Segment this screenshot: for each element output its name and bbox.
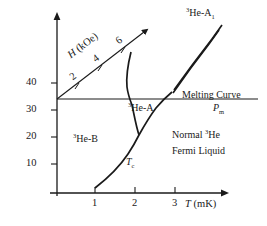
y-axis [51, 12, 60, 196]
he3-phase-diagram-figure: 40 30 20 10 P (Atm.) 1 2 3 T (mK) H (kOe… [0, 0, 267, 226]
x-tick-label-2: 2 [132, 198, 137, 209]
y-tick-label-30: 30 [26, 104, 37, 115]
he3-b-main: He-B [76, 133, 98, 144]
tc-subscript: c [132, 162, 135, 169]
x-axis-title-unit: (mK) [193, 198, 216, 209]
label-normal-he3: Normal 3He [172, 130, 220, 140]
a1-lower-boundary [173, 30, 219, 93]
x-axis-title: T (mK) [185, 199, 216, 210]
y-tick-label-20: 20 [26, 131, 37, 142]
normal-he3-main: He [208, 129, 220, 140]
label-pm: Pm [213, 103, 224, 113]
x-axis [50, 187, 229, 196]
ab-boundary-curve [127, 52, 139, 135]
y-axis-ticks [51, 83, 57, 164]
x-axis-arrowhead [221, 190, 229, 197]
label-he3-b: 3He-B [73, 134, 98, 144]
label-he3-a: 3He-A [128, 103, 153, 113]
label-melting-curve: Melting Curve [182, 90, 241, 100]
y-axis-arrowhead [54, 12, 61, 20]
x-tick-label-1: 1 [92, 198, 97, 209]
pm-subscript: m [219, 108, 224, 115]
he3-a1-subscript: 1 [211, 13, 214, 20]
label-tc: Tc [126, 157, 134, 167]
normal-he3-pre: Normal [172, 129, 205, 140]
label-he3-a1: 3He-A1 [186, 8, 215, 18]
h-axis [57, 32, 144, 99]
x-axis-title-symbol: T [185, 198, 191, 209]
label-fermi-liquid: Fermi Liquid [172, 146, 225, 156]
he3-a-main: He-A [131, 102, 153, 113]
h-axis-ticks [75, 47, 125, 89]
y-tick-label-40: 40 [26, 77, 37, 88]
x-tick-label-3: 3 [172, 198, 177, 209]
he3-a1-main: He-A [189, 7, 211, 18]
x-axis-ticks [95, 187, 175, 193]
diagram-canvas [0, 0, 267, 226]
y-tick-label-10: 10 [26, 158, 37, 169]
